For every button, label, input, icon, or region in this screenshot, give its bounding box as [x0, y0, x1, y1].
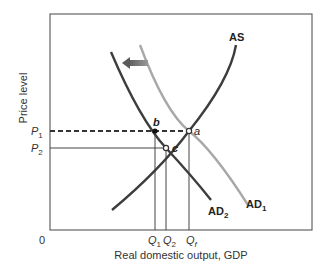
as-label: AS [229, 31, 244, 43]
point-a [186, 128, 191, 133]
origin-label: 0 [39, 234, 45, 246]
y-tick-p1: P1 [31, 125, 43, 140]
y-tick-p2: P2 [31, 142, 43, 157]
x-axis-label: Real domestic output, GDP [114, 249, 247, 261]
ad1-label: AD1 [246, 198, 267, 213]
point-c [163, 145, 168, 150]
point-b [152, 128, 157, 133]
as-curve [112, 45, 236, 210]
x-tick-q2: Q2 [163, 234, 177, 249]
ad2-label: AD2 [208, 205, 229, 220]
ad-as-chart: a b c AS AD2 AD1 P1 P2 Q1 Q2 Qf 0 Real d… [0, 0, 328, 276]
point-b-label: b [153, 116, 160, 128]
x-tick-qf: Qf [186, 234, 198, 249]
x-tick-q1: Q1 [148, 234, 162, 249]
point-c-label: c [172, 142, 178, 154]
point-a-label: a [194, 125, 200, 137]
y-axis-label: Price level [17, 73, 29, 124]
